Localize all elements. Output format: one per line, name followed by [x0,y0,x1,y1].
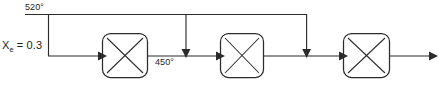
stream-feed-inlet [49,15,108,61]
reactor-2[interactable] [221,34,264,78]
stream-quench-1 [182,15,191,59]
product-outlet-arrowhead [429,52,438,61]
label-interstage-temperature: 450° [155,58,174,67]
label-conversion: Xe = 0.3 [2,40,42,54]
stream-product-outlet [390,52,438,61]
stream-quench-2 [302,15,311,59]
flow-diagram-canvas [0,0,441,88]
conversion-value: = 0.3 [14,39,42,51]
label-inlet-temperature: 520° [25,3,44,12]
feed-inlet-path [49,15,99,57]
quench-2-arrowhead [302,49,311,58]
process-flow-diagram: 520° 450° Xe = 0.3 [0,0,441,88]
quench-1-arrowhead [182,49,191,58]
reactor-1[interactable] [103,34,148,78]
reactor-3[interactable] [344,34,390,78]
